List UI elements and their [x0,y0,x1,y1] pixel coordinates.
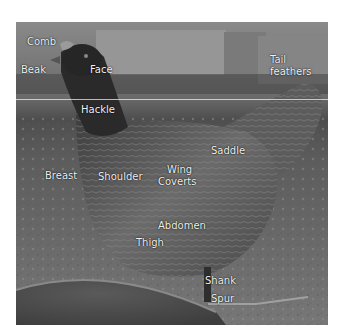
label-beak: Beak [21,64,46,76]
label-wing-coverts: Wing Coverts [158,164,196,188]
label-tail-feathers-line2: feathers [270,66,312,78]
label-face: Face [90,64,113,76]
label-shoulder: Shoulder [98,171,143,183]
label-tail-feathers-line1: Tail [270,54,312,66]
label-hackle: Hackle [81,104,115,116]
label-wing-coverts-line2: Coverts [158,176,196,188]
guide-line [16,99,328,100]
label-thigh: Thigh [136,237,164,249]
label-tail-feathers: Tail feathers [270,54,312,78]
label-shank: Shank [205,275,236,287]
label-abdomen: Abdomen [158,220,206,232]
label-saddle: Saddle [211,145,245,157]
label-breast: Breast [45,170,77,182]
label-wing-coverts-line1: Wing [158,164,196,176]
label-comb: Comb [27,36,56,48]
label-spur: Spur [211,293,234,305]
